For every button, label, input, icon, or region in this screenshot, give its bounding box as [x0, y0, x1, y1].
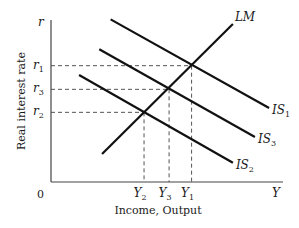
x-axis-symbol: Y — [272, 186, 281, 200]
y-tick-label-r2: r2 — [33, 104, 44, 120]
y-tick-label-r3: r3 — [33, 81, 44, 97]
is2-curve — [79, 75, 233, 163]
tick-labels: Y1r1Y3r3Y2r2 — [33, 58, 194, 202]
x-axis-label: Income, Output — [114, 204, 202, 217]
dashed-guides — [51, 66, 192, 182]
y-axis-symbol: r — [38, 15, 45, 29]
lm-label: LM — [234, 10, 256, 24]
y-axis-label: Real interest rate — [15, 52, 28, 150]
y-tick-label-r1: r1 — [33, 58, 44, 74]
is2-label: IS2 — [235, 158, 254, 174]
origin-label: 0 — [37, 188, 44, 201]
is-lm-diagram: LMIS1IS3IS2 Y1r1Y3r3Y2r2 r Y 0 Income, O… — [0, 0, 299, 228]
is3-curve — [99, 49, 255, 137]
is3-label: IS3 — [257, 132, 276, 148]
x-tick-label-y3: Y3 — [159, 186, 172, 202]
curves: LMIS1IS3IS2 — [79, 10, 290, 174]
is1-curve — [111, 19, 269, 108]
is1-label: IS1 — [271, 103, 290, 119]
x-tick-label-y1: Y1 — [181, 186, 194, 202]
x-tick-label-y2: Y2 — [134, 186, 147, 202]
